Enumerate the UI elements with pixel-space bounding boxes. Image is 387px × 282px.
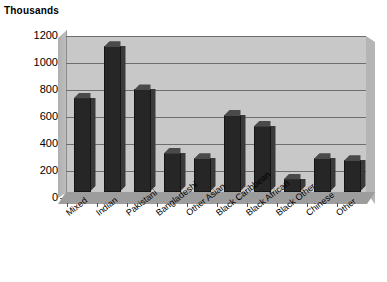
x-axis-tick-label: Mixed [64,195,89,218]
x-axis-tick-label: Indian [94,195,119,218]
x-axis-tick-label: Other [334,196,358,218]
bar-chart: Thousands 020040060080010001200 MixedInd… [0,0,387,282]
x-axis: MixedIndianPakistaniBangladeshiOther Asi… [0,0,387,282]
x-axis-tick-label: Pakistani [124,188,159,218]
